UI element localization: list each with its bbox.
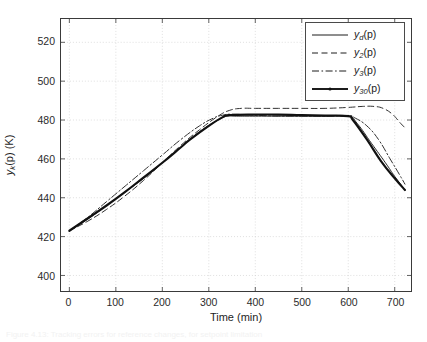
- series-line: [69, 106, 405, 231]
- legend-label-suffix: (p): [368, 82, 381, 94]
- y-axis-tick-label: 520: [37, 35, 55, 47]
- y-axis-title-suffix: (p) (K): [3, 135, 15, 166]
- legend-line-sample: [310, 28, 350, 42]
- y-axis-tick-label: 480: [37, 114, 55, 126]
- legend-label-subscript: 30: [359, 87, 367, 96]
- figure-container: yk(p) (K) 400420440460480500520 01002003…: [0, 0, 427, 342]
- y-axis-tick-labels: 400420440460480500520: [22, 18, 55, 292]
- y-axis-title: yk(p) (K): [3, 135, 17, 176]
- y-axis-title-subscript: k: [8, 166, 17, 170]
- x-axis-tick-label: 0: [65, 296, 71, 308]
- y-axis-tick-label: 440: [37, 192, 55, 204]
- y-axis-tick-label: 460: [37, 153, 55, 165]
- x-axis-tick-label: 100: [106, 296, 124, 308]
- series-line: [69, 114, 405, 231]
- legend-label-suffix: (p): [363, 46, 376, 58]
- figure-caption: Figure 4.13: Tracking errors for referen…: [6, 330, 421, 339]
- x-axis-tick-labels: 0100200300400500600700: [60, 296, 412, 310]
- x-axis-tick-label: 400: [247, 296, 265, 308]
- y-axis-tick-label: 420: [37, 231, 55, 243]
- y-axis-title-wrapper: yk(p) (K): [0, 18, 20, 292]
- legend-label: y2(p): [354, 46, 376, 60]
- legend-item[interactable]: yd(p): [306, 26, 404, 44]
- x-axis-tick-label: 700: [387, 296, 405, 308]
- legend-box: yd(p)y2(p)y3(p)y30(p): [305, 22, 405, 101]
- y-axis-title-symbol: y: [3, 170, 15, 176]
- legend-label: y30(p): [354, 82, 381, 96]
- legend-item[interactable]: y2(p): [306, 44, 404, 62]
- y-axis-tick-label: 400: [37, 270, 55, 282]
- x-axis-tick-label: 300: [200, 296, 218, 308]
- legend-label: y3(p): [354, 64, 376, 78]
- legend-label-suffix: (p): [363, 64, 376, 76]
- legend-label: yd(p): [354, 28, 376, 42]
- legend-label-suffix: (p): [363, 28, 376, 40]
- legend-item[interactable]: y30(p): [306, 80, 404, 98]
- legend-line-sample: [310, 64, 350, 78]
- legend-line-sample: [310, 82, 350, 96]
- x-axis-tick-label: 600: [340, 296, 358, 308]
- legend-item[interactable]: y3(p): [306, 62, 404, 80]
- y-axis-tick-label: 500: [37, 75, 55, 87]
- x-axis-title: Time (min): [60, 311, 412, 323]
- x-axis-tick-label: 500: [293, 296, 311, 308]
- x-axis-tick-label: 200: [153, 296, 171, 308]
- series-line: [69, 114, 405, 230]
- series-line: [69, 115, 405, 230]
- legend-line-sample: [310, 46, 350, 60]
